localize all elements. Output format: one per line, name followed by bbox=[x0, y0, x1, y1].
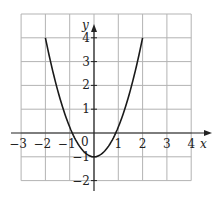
y-axis-arrow-icon bbox=[91, 24, 97, 32]
x-tick-label: 3 bbox=[163, 137, 171, 151]
y-tick-label: 2 bbox=[82, 78, 90, 92]
y-tick-label: 3 bbox=[82, 55, 90, 69]
x-axis-arrow-icon bbox=[204, 130, 212, 136]
y-tick-label: 4 bbox=[82, 31, 90, 45]
x-tick-label: 1 bbox=[114, 137, 122, 151]
graph-figure: −3−2−11234−2−11234 x y 0 bbox=[0, 0, 221, 203]
x-tick-label: 2 bbox=[139, 137, 147, 151]
y-tick-label: 1 bbox=[82, 102, 90, 116]
x-tick-label: 4 bbox=[187, 137, 195, 151]
x-axis-label: x bbox=[200, 137, 207, 151]
origin-label: 0 bbox=[81, 135, 89, 149]
parabola-plot: −3−2−11234−2−11234 x y 0 bbox=[0, 0, 221, 203]
y-axis-label: y bbox=[81, 18, 89, 32]
x-tick-label: −3 bbox=[9, 137, 27, 151]
y-tick-label: −1 bbox=[72, 150, 90, 164]
axes bbox=[11, 24, 212, 191]
grid-lines bbox=[21, 14, 191, 181]
x-tick-label: −2 bbox=[34, 137, 52, 151]
y-tick-label: −2 bbox=[72, 174, 90, 188]
